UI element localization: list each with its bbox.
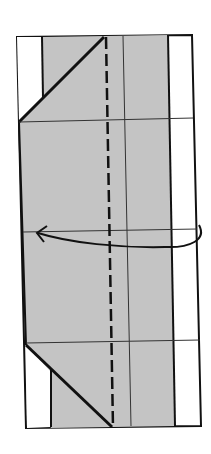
origami-diagram [0,0,211,454]
left-inner-edge-top [42,37,43,98]
